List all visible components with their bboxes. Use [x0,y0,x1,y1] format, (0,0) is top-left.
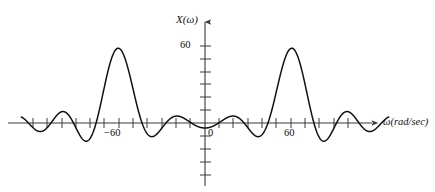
figure-container: X(ω) ω(rad/sec) 60 −60 0 60 [0,0,435,192]
x-axis-label: ω(rad/sec) [383,117,428,128]
y-axis-label: X(ω) [176,14,198,25]
x-tick-label-60: 60 [284,128,295,139]
x-tick-label-zero: 0 [208,128,213,139]
spectrum-plot [0,0,435,192]
x-tick-label-minus-60: −60 [104,128,120,139]
y-tick-label-60: 60 [180,40,191,51]
